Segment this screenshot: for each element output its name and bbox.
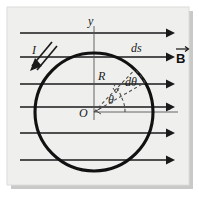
x-axis-label: x <box>165 100 171 112</box>
y-axis-label: y <box>87 14 94 28</box>
theta-label: θ <box>108 93 114 107</box>
dtheta-label: dθ <box>125 75 137 89</box>
arc-element-label: ds <box>131 41 142 55</box>
radius-label: R <box>97 69 106 83</box>
origin-label: O <box>79 106 88 120</box>
magnetic-field-label: B <box>176 51 185 66</box>
physics-diagram-figure: y x O R θ dθ ds I B <box>0 0 199 198</box>
diagram-canvas: y x O R θ dθ ds I B <box>0 0 199 198</box>
